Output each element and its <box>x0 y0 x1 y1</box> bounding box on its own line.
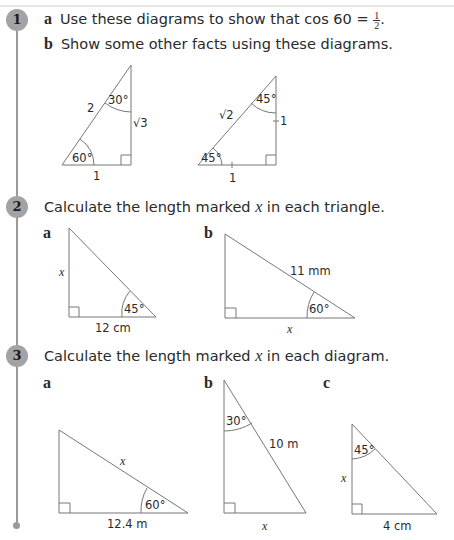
q2-part-b-label: b <box>204 224 213 242</box>
q3b-base: x <box>261 519 268 533</box>
q1d1-top-angle: 30° <box>108 93 128 107</box>
q3a-hyp: x <box>119 454 126 468</box>
q2b-hyp: 11 mm <box>290 264 331 278</box>
q1-triangle-45-45-90: 45° 45° √2 1 1 <box>198 76 287 185</box>
q1-triangle-30-60-90: 60° 30° 2 √3 1 <box>62 65 148 183</box>
q3b-hyp: 10 m <box>269 437 299 451</box>
q3c-vertical: x <box>340 471 347 485</box>
q2-part-a-label: a <box>43 224 51 242</box>
q3a-angle: 60° <box>145 498 165 512</box>
q3b-angle: 30° <box>226 414 246 428</box>
q1d2-top-angle: 45° <box>256 92 276 106</box>
question-number-2: 2 <box>6 196 28 218</box>
question-3-prompt: Calculate the length marked x in each di… <box>44 347 389 365</box>
q1d1-vertical: √3 <box>133 116 148 130</box>
q3c-triangle: 45° x 4 cm <box>340 424 437 533</box>
q2b-triangle: 11 mm 60° x <box>225 234 355 336</box>
q1d1-hyp: 2 <box>87 101 94 115</box>
q3a-base: 12.4 m <box>107 517 147 531</box>
q3b-triangle: 30° 10 m x <box>224 380 306 533</box>
q1d2-base: 1 <box>229 171 236 185</box>
q2b-base: x <box>286 322 293 336</box>
q2a-base: 12 cm <box>95 321 131 335</box>
q1d1-bottom-angle: 60° <box>72 151 92 165</box>
q3-part-b-label: b <box>204 374 213 392</box>
q3c-angle: 45° <box>354 443 374 457</box>
q1d2-vertical: 1 <box>280 114 287 128</box>
q2a-vertical: x <box>58 265 65 279</box>
q3c-base: 4 cm <box>383 519 412 533</box>
q2a-triangle: x 45° 12 cm <box>58 228 156 335</box>
q1d1-base: 1 <box>93 169 100 183</box>
q2b-angle: 60° <box>309 302 329 316</box>
q2a-angle: 45° <box>124 302 144 316</box>
q1d2-bottom-angle: 45° <box>201 151 221 165</box>
q1d2-hyp: √2 <box>219 108 234 122</box>
question-number-3: 3 <box>6 345 28 367</box>
q3-part-c-label: c <box>323 374 330 392</box>
q3-part-a-label: a <box>43 374 51 392</box>
question-2-prompt: Calculate the length marked x in each tr… <box>44 198 385 216</box>
q3a-triangle: x 60° 12.4 m <box>59 430 188 531</box>
diagrams-canvas: 60° 30° 2 √3 1 45° 45° √2 1 1 x 45° 12 c… <box>0 0 454 540</box>
